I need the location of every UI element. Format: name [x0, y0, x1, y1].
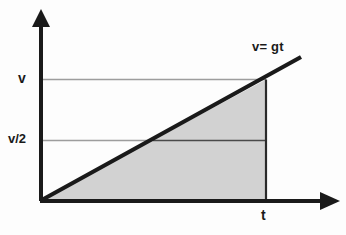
- x-axis-label-t: t: [261, 208, 266, 222]
- plot-canvas: [0, 0, 346, 235]
- curve-label-equation: v= gt: [252, 40, 284, 53]
- y-axis-label-v: v: [18, 71, 26, 85]
- x-axis-arrow-icon: [320, 192, 340, 210]
- velocity-time-graph-figure: v v/2 t v= gt: [0, 0, 346, 235]
- y-axis-label-v-half: v/2: [8, 132, 26, 145]
- y-axis-arrow-icon: [32, 9, 50, 27]
